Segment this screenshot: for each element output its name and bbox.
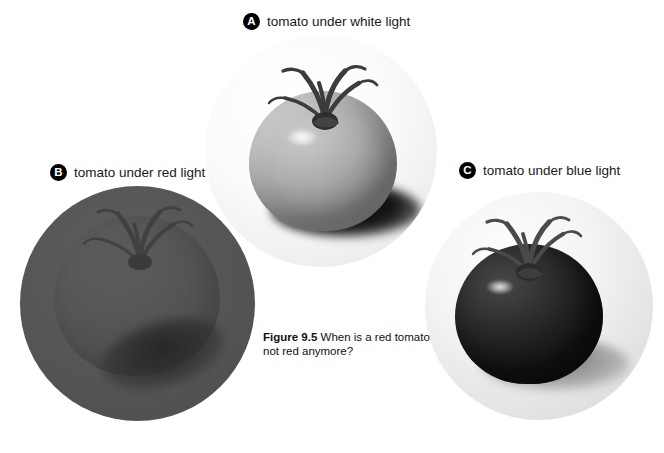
panel-label-white-light: A tomato under white light bbox=[243, 13, 410, 30]
panel-badge-a: A bbox=[243, 13, 260, 30]
tomato-body bbox=[249, 91, 397, 231]
panel-badge-b: B bbox=[50, 164, 67, 181]
panel-label-red-light: B tomato under red light bbox=[50, 164, 205, 181]
figure-container: A tomato under white light B tomato unde… bbox=[0, 0, 664, 453]
tomato-body bbox=[455, 244, 603, 384]
panel-label-blue-light: C tomato under blue light bbox=[459, 162, 620, 179]
figure-caption-number: Figure 9.5 bbox=[263, 331, 321, 343]
photo-panel-white-light bbox=[205, 35, 437, 267]
photo-panel-blue-light bbox=[425, 192, 653, 420]
photo-panel-red-light bbox=[20, 186, 255, 421]
panel-label-text-c: tomato under blue light bbox=[483, 163, 620, 178]
figure-caption: Figure 9.5 When is a red tomato not red … bbox=[263, 330, 439, 358]
panel-label-text-b: tomato under red light bbox=[74, 165, 205, 180]
panel-label-text-a: tomato under white light bbox=[267, 14, 410, 29]
panel-badge-c: C bbox=[459, 162, 476, 179]
